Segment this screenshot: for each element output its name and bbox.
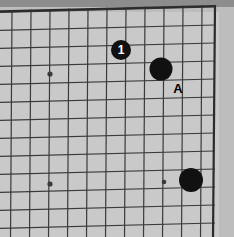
star-point-lower-right: [162, 180, 167, 185]
black-stone-upper-right: [150, 58, 173, 81]
star-point-upper-left: [47, 71, 52, 76]
paper-margin-right: [219, 0, 234, 237]
point-label-a: A: [173, 81, 183, 96]
black-stone-move-1-number: 1: [118, 43, 125, 57]
go-board-diagram: 1 A: [0, 0, 234, 237]
annotations-group: A: [173, 81, 183, 96]
star-point-lower-left: [47, 181, 52, 186]
black-stone-lower-right: [179, 168, 203, 192]
board-background: [0, 0, 234, 237]
board-canvas: 1 A: [0, 0, 234, 237]
